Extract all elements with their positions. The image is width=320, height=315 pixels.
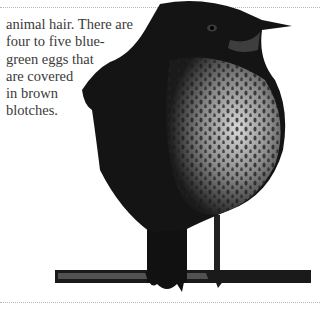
word: are	[6, 68, 24, 84]
text-line-6: blotches.	[6, 102, 146, 119]
word: to	[34, 33, 45, 49]
word: covered	[27, 68, 73, 84]
text-line-4: are covered	[6, 68, 80, 85]
text-line-1: animal hair. There are	[6, 16, 136, 33]
article-body: animal hair. There are four to five blue…	[6, 16, 146, 120]
word: animal	[6, 16, 45, 32]
word: blue-	[75, 33, 105, 49]
text-line-2: four to five blue-	[6, 33, 114, 50]
word: are	[115, 16, 133, 32]
word: five	[49, 33, 72, 49]
word: brown	[21, 85, 58, 101]
word: hair.	[49, 16, 74, 32]
word: There	[78, 16, 112, 32]
text-line-5: in brown	[6, 85, 80, 102]
word: four	[6, 33, 30, 49]
text-line-3: green eggs that	[6, 51, 146, 68]
word: in	[6, 85, 17, 101]
